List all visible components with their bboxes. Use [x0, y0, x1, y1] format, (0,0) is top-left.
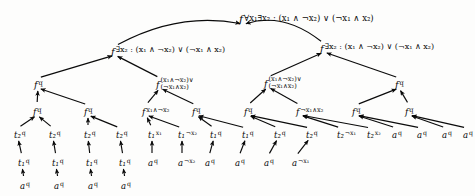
node-symbol: t₁ [210, 130, 217, 140]
node-label: q [196, 107, 200, 114]
node-symbol: a [88, 181, 93, 191]
tree-node-n-RLL: fq [244, 102, 253, 119]
node-label: q [26, 181, 30, 188]
node-symbol: f [320, 43, 324, 54]
node-symbol: t₂ [367, 130, 374, 140]
tree-edge [240, 141, 245, 153]
tree-node-m8: aq [235, 153, 245, 170]
tree-node-n-LLL: fq [33, 102, 42, 119]
node-label: q [88, 107, 92, 114]
node-symbol: f [352, 107, 355, 117]
tree-node-b3: aq [88, 176, 98, 193]
node-label: (x₁∧¬x₂)∨(¬x₁∧x₂) [269, 75, 302, 89]
tree-node-n-RL: f(x₁∧¬x₂)∨(¬x₁∧x₂) [264, 74, 302, 91]
node-label: ¬x₁ [298, 158, 309, 165]
node-symbol: f [33, 107, 36, 117]
tree-node-n-LLR: fq [84, 102, 93, 119]
node-symbol: t₂ [116, 130, 123, 140]
tree-edge [210, 141, 213, 153]
tree-node-m5: aq [148, 153, 158, 170]
tree-node-m10: a¬x₁ [292, 153, 309, 170]
node-symbol: a [121, 181, 126, 191]
node-label: ¬x₁ [345, 130, 356, 137]
node-symbol: a [20, 181, 25, 191]
node-symbol: a [235, 158, 240, 168]
node-symbol: t₁ [52, 158, 59, 168]
tree-node-b1: aq [20, 176, 30, 193]
node-label: ∃x₂ : (x₁ ∧ ¬x₂) ∨ (¬x₁ ∧ x₂) [325, 43, 434, 51]
tree-edge [53, 141, 55, 153]
node-symbol: a [417, 130, 422, 140]
node-symbol: t₁ [178, 130, 185, 140]
node-label: q [60, 158, 64, 165]
node-symbol: a [205, 158, 210, 168]
tree-node-b4: aq [121, 176, 131, 193]
tree-node-n-L: f∃x₂ : (x₁ ∧ ¬x₂) ∨ (¬x₁ ∧ x₂) [111, 42, 225, 59]
node-label: q [60, 181, 64, 188]
tree-edge [327, 53, 396, 77]
tree-node-n-RRR: fq [405, 102, 414, 119]
node-label: q [314, 130, 318, 137]
node-label: x₁∧¬x₂ [146, 107, 169, 114]
node-symbol: f [264, 78, 268, 89]
tree-node-m2: t₁q [52, 153, 64, 170]
node-symbol: t₁ [119, 158, 126, 168]
node-symbol: f [395, 79, 399, 90]
tree-node-l16: aq [463, 125, 473, 142]
node-label: q [409, 107, 413, 114]
node-symbol: f [142, 107, 145, 117]
node-symbol: f [111, 46, 115, 57]
tree-node-n-LRL: fx₁∧¬x₂ [142, 102, 169, 119]
tree-node-m6: a¬x₂ [178, 153, 195, 170]
node-symbol: a [463, 130, 468, 140]
tree-edge [41, 56, 112, 77]
node-symbol: t₁ [86, 158, 93, 168]
tree-node-l5: t₁x₁ [148, 125, 162, 142]
tree-node-l9: t₂q [274, 125, 286, 142]
node-symbol: a [54, 181, 59, 191]
node-label: q [26, 158, 30, 165]
node-label: q [57, 130, 61, 137]
tree-edge [120, 141, 122, 153]
node-symbol: a [264, 158, 269, 168]
tree-node-root: f∀x₁∃x₂ : (x₁ ∧ ¬x₂) ∨ (¬x₁ ∧ x₂) [239, 10, 374, 27]
node-symbol: f [34, 79, 38, 90]
node-label: q [22, 130, 26, 137]
tree-node-l13: aq [392, 125, 402, 142]
tree-edge [251, 116, 275, 127]
node-label: q [398, 130, 402, 137]
node-label: q [469, 130, 473, 137]
tree-node-n-R: f∃x₂ : (x₁ ∧ ¬x₂) ∨ (¬x₁ ∧ x₂) [320, 39, 434, 56]
node-symbol: t₂ [14, 130, 21, 140]
tree-node-m4: t₁q [119, 153, 131, 170]
tree-edge [359, 89, 396, 104]
tree-node-l2: t₂q [49, 125, 61, 142]
node-symbol: t₂ [49, 130, 56, 140]
node-label: q [250, 130, 254, 137]
node-symbol: f [296, 107, 299, 117]
tree-node-b2: aq [54, 176, 64, 193]
node-symbol: a [148, 158, 153, 168]
tree-edge [118, 56, 158, 76]
node-symbol: t₂ [274, 130, 281, 140]
node-label: x₁ [156, 130, 162, 137]
tree-node-l1: t₂q [14, 125, 26, 142]
node-symbol: a [392, 130, 397, 140]
tree-node-l6: t₁¬x₂ [178, 125, 197, 142]
tree-node-n-RR: fq [395, 75, 404, 92]
node-symbol: t₁ [242, 130, 249, 140]
node-symbol: f [192, 107, 195, 117]
node-symbol: t₂ [337, 130, 344, 140]
node-label: q [127, 158, 131, 165]
node-symbol: t₂ [306, 130, 313, 140]
tree-node-n-LR: f(x₁∧¬x₂)∨(¬x₁∧x₂) [156, 75, 194, 92]
tree-node-l14: aq [417, 125, 427, 142]
node-label: q [282, 130, 286, 137]
tree-edge [41, 89, 85, 104]
node-symbol: f [405, 107, 408, 117]
node-symbol: t₂ [84, 130, 91, 140]
node-label: q [448, 130, 452, 137]
node-label: ∀x₁∃x₂ : (x₁ ∧ ¬x₂) ∨ (¬x₁ ∧ x₂) [244, 14, 374, 23]
node-symbol: t₁ [148, 130, 155, 140]
tree-node-l4: t₂q [116, 125, 128, 142]
